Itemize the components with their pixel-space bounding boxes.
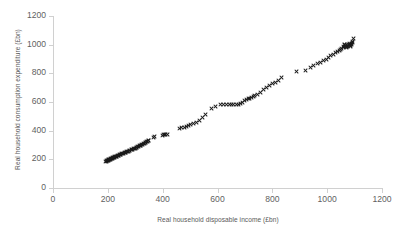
data-point-marker [110,155,115,160]
data-point-marker [348,44,353,49]
data-point-marker [106,157,111,162]
data-point-marker [342,42,347,47]
data-point-marker [236,102,241,107]
data-point-marker [184,124,189,129]
data-point-marker [118,152,123,157]
x-tick-mark [327,189,328,193]
data-point-marker [122,150,127,155]
data-point-marker [279,75,284,80]
data-point-marker [267,83,272,88]
data-point-marker [105,158,110,163]
data-point-marker [315,61,320,66]
data-point-marker [261,87,266,92]
x-tick-label: 600 [198,194,238,204]
x-tick-mark [53,189,54,193]
data-point-marker [119,151,124,156]
scatter-chart: Real household consumption expenditure (… [0,0,405,240]
data-point-marker [347,42,352,47]
data-point-marker [312,63,317,68]
data-point-marker [324,57,329,62]
data-point-marker [128,148,133,153]
data-point-marker [163,132,168,137]
data-point-marker [109,156,114,161]
data-point-marker [113,154,118,159]
data-point-marker [106,158,111,163]
data-point-marker [109,156,114,161]
data-point-marker [144,139,149,144]
data-point-marker [335,49,340,54]
data-point-marker [139,143,144,148]
data-point-marker [224,102,229,107]
data-point-marker [337,48,342,53]
data-point-marker [350,40,355,45]
data-point-marker [162,132,167,137]
x-tick-mark [163,189,164,193]
data-point-marker [294,69,299,74]
data-point-marker [108,157,113,162]
data-point-marker [146,138,151,143]
data-point-marker [105,158,110,163]
data-point-marker [177,126,182,131]
data-point-marker [152,134,157,139]
data-point-marker [252,93,257,98]
data-point-marker [142,141,147,146]
data-point-marker [112,155,117,160]
x-tick-label: 400 [143,194,183,204]
data-point-marker [115,153,120,158]
data-point-marker [258,90,263,95]
data-point-marker [135,144,140,149]
data-point-marker [264,85,269,90]
data-point-marker [218,102,223,107]
plot-area [53,16,382,188]
x-tick-mark [382,189,383,193]
y-tick-label: 400 [12,125,46,135]
data-point-marker [194,120,199,125]
data-point-marker [308,65,313,70]
data-point-marker [104,159,109,164]
data-point-marker [338,47,343,52]
data-point-marker [191,121,196,126]
data-point-marker [143,140,148,145]
data-point-marker [136,144,141,149]
data-point-marker [344,44,349,49]
data-point-marker [231,102,236,107]
data-point-marker [118,152,123,157]
x-tick-label: 200 [88,194,128,204]
data-point-marker [227,102,232,107]
data-point-marker [240,100,245,105]
y-tick-label: 0 [12,182,46,192]
x-axis-title: Real household disposable income (£bn) [53,216,383,223]
data-point-marker [125,149,130,154]
data-point-marker [242,98,247,103]
x-tick-mark [218,189,219,193]
data-point-marker [104,158,109,163]
data-point-marker [143,140,148,145]
data-point-marker [126,149,131,154]
data-point-marker [342,42,347,47]
data-point-marker [347,41,352,46]
data-point-marker [251,94,256,99]
data-point-marker [343,43,348,48]
data-point-marker [213,104,218,109]
data-point-marker [123,150,128,155]
data-point-marker [270,81,275,86]
data-point-marker [127,148,132,153]
data-point-marker [111,155,116,160]
x-tick-label: 0 [33,194,73,204]
data-point-marker [333,50,338,55]
data-point-marker [121,151,126,156]
data-point-marker [161,132,166,137]
data-point-marker [107,157,112,162]
data-point-marker [130,147,135,152]
data-point-marker [229,102,234,107]
data-point-marker [348,43,353,48]
data-point-marker [137,143,142,148]
data-point-marker [139,142,144,147]
data-point-marker [116,153,121,158]
y-tick-label: 200 [12,153,46,163]
data-point-marker [134,145,139,150]
data-point-marker [103,159,108,164]
data-point-marker [209,106,214,111]
data-point-marker [107,157,112,162]
data-point-marker [331,52,336,57]
